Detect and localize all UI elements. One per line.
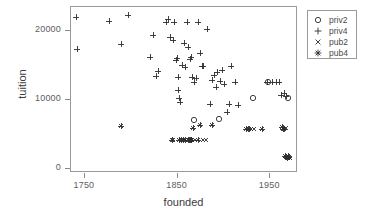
plus-marker-icon [313,26,324,37]
legend-item-label: priv4 [329,26,347,37]
y-axis-tick [65,99,70,100]
x-axis-label: founded [70,196,297,208]
y-axis-label: tuition [16,54,28,114]
cross-marker-icon [313,37,324,48]
legend-item-priv2[interactable]: priv2 [308,15,356,26]
legend-item-label: pub2 [329,37,348,48]
circle-marker-icon [313,15,324,26]
y-axis-tick-label: 0 [8,162,61,172]
star-marker-icon [313,48,324,59]
legend-item-label: pub4 [329,48,348,59]
legend-item-pub4[interactable]: pub4 [308,48,356,59]
plot-data-area [71,7,296,171]
y-axis-tick [65,30,70,31]
y-axis-tick [65,168,70,169]
legend-item-label: priv2 [329,15,347,26]
y-axis-tick-label: 20000 [8,24,61,34]
x-axis-tick [269,173,270,178]
x-axis-tick [177,173,178,178]
x-axis-tick-label: 1750 [59,180,109,190]
scatter-plot-figure: 01000020000 175018501950 tuition founded… [0,0,365,219]
legend-item-priv4[interactable]: priv4 [308,26,356,37]
x-axis-tick-label: 1950 [244,180,294,190]
plot-frame [70,6,297,172]
x-axis-tick-label: 1850 [152,180,202,190]
legend-box: priv2priv4pub2pub4 [307,10,357,59]
x-axis-tick [84,173,85,178]
legend-item-pub2[interactable]: pub2 [308,37,356,48]
